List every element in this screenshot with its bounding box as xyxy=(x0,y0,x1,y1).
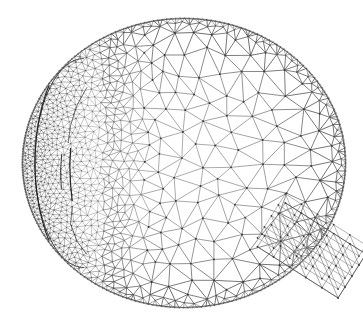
eye-mesh-figure: Triangular finite element surface mesh o… xyxy=(0,0,363,326)
eye-finite-element-mesh-canvas xyxy=(0,0,363,326)
